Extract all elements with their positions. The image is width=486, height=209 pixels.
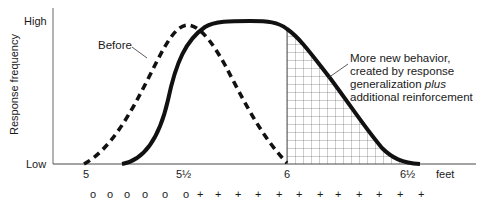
- marker-plus: +: [197, 188, 203, 200]
- marker-plus: +: [418, 188, 424, 200]
- marker-plus: +: [235, 188, 241, 200]
- after-label-line-2: created by response: [350, 65, 454, 77]
- marker-plus: +: [335, 188, 341, 200]
- marker-plus: +: [356, 188, 362, 200]
- y-high-label: High: [24, 15, 47, 27]
- after-arrow: [328, 64, 348, 78]
- marker-plus: +: [397, 188, 403, 200]
- y-low-label: Low: [26, 158, 46, 170]
- marker-plus: +: [276, 188, 282, 200]
- x-tick-6-half: 6½: [400, 168, 415, 180]
- marker-o: o: [142, 188, 148, 200]
- after-label-line-1: More new behavior,: [350, 52, 450, 64]
- x-tick-6: 6: [284, 168, 290, 180]
- x-unit-label: feet: [436, 168, 454, 180]
- response-generalization-diagram: High Low Response frequency 5 5½ 6 6½ fe…: [0, 0, 486, 209]
- marker-o: o: [162, 188, 168, 200]
- marker-plus: +: [376, 188, 382, 200]
- marker-plus: +: [255, 188, 261, 200]
- marker-o: o: [107, 188, 113, 200]
- marker-o: o: [183, 188, 189, 200]
- marker-o: o: [90, 188, 96, 200]
- marker-plus: +: [317, 188, 323, 200]
- after-label-line-3: generalization plus: [350, 78, 446, 90]
- before-arrow: [132, 47, 147, 58]
- marker-plus: +: [296, 188, 302, 200]
- marker-row: o o o o o o + + + + + + + + + + + +: [90, 188, 424, 200]
- x-tick-5-half: 5½: [176, 168, 191, 180]
- before-label: Before: [98, 39, 132, 51]
- marker-o: o: [124, 188, 130, 200]
- marker-plus: +: [215, 188, 221, 200]
- after-annotation: More new behavior, created by response g…: [328, 52, 474, 103]
- y-axis-title: Response frequency: [8, 34, 20, 135]
- after-label-line-4: additional reinforcement: [350, 91, 474, 103]
- x-tick-5: 5: [83, 168, 89, 180]
